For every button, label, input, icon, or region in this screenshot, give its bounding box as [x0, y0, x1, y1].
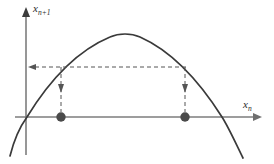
right-fixed-point-marker [180, 112, 189, 121]
parabola-curve [10, 34, 243, 158]
x-axis-label: xn [243, 99, 252, 110]
left-vertical-guide-arrowhead-icon [58, 84, 64, 93]
y-axis-arrowhead [22, 7, 30, 17]
x-axis-label-subscript: n [248, 104, 252, 113]
y-axis-label-subscript: n+1 [38, 8, 51, 17]
right-vertical-guide-arrowhead-icon [182, 84, 188, 93]
horizontal-guide-arrowhead-icon [28, 64, 36, 70]
x-axis-arrowhead [253, 113, 262, 121]
iteration-diagram-figure: xn+1 xn [0, 0, 274, 164]
y-axis-label: xn+1 [33, 3, 50, 14]
left-fixed-point-marker [56, 112, 65, 121]
figure-canvas [0, 0, 274, 164]
